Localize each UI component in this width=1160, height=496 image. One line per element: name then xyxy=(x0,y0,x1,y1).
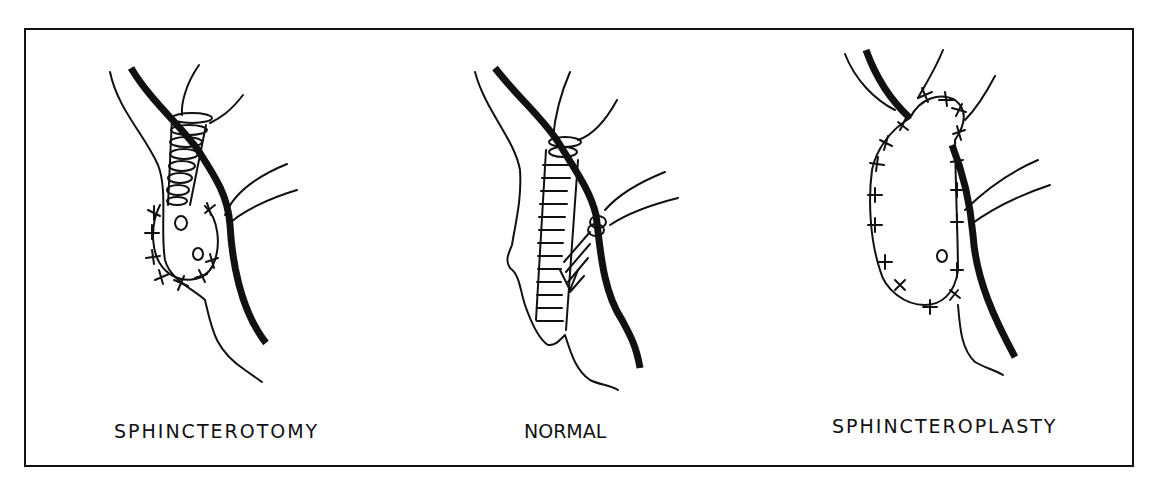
panel-sphincteroplasty: SPHINCTEROPLASTY xyxy=(0,0,1160,496)
label-sphincteroplasty: SPHINCTEROPLASTY xyxy=(832,415,1057,437)
